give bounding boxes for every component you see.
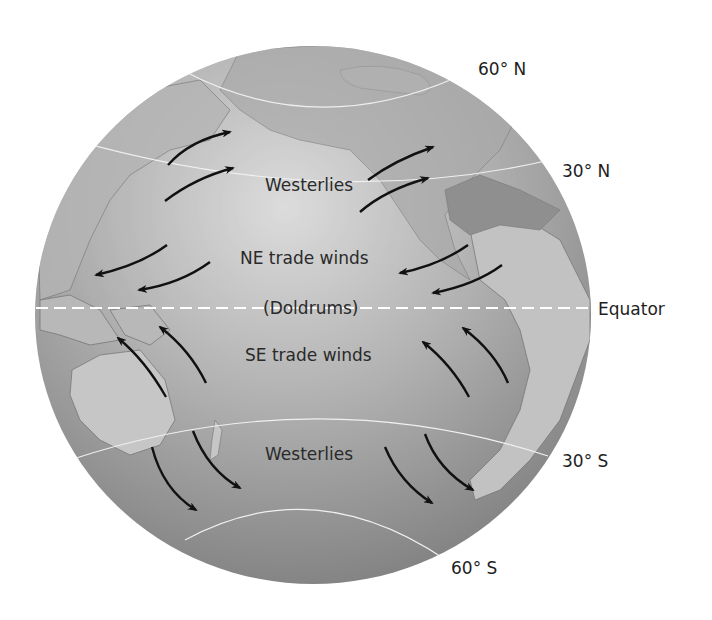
label-lat-60n: 60° N (478, 61, 526, 78)
label-westerlies-south: Westerlies (265, 446, 353, 463)
label-doldrums: (Doldrums) (263, 300, 358, 317)
label-equator: Equator (598, 301, 665, 318)
label-lat-30s: 30° S (562, 453, 608, 470)
label-ne-trade-winds: NE trade winds (240, 250, 369, 267)
label-lat-30n: 30° N (562, 163, 610, 180)
label-se-trade-winds: SE trade winds (245, 347, 372, 364)
label-westerlies-north: Westerlies (265, 177, 353, 194)
label-lat-60s: 60° S (451, 560, 497, 577)
